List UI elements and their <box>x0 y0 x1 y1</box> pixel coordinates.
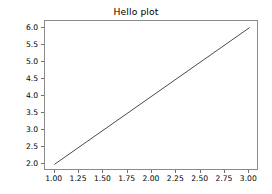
y-tick-mark <box>41 61 44 62</box>
y-tick-mark <box>41 44 44 45</box>
y-tick-label: 2.5 <box>26 142 38 151</box>
x-tick-mark <box>127 170 128 173</box>
plot-axes <box>44 20 258 170</box>
matplotlib-figure: Hello plot 1.001.251.501.752.002.252.502… <box>0 0 272 194</box>
y-tick-label: 4.0 <box>26 91 38 100</box>
x-tick-mark <box>102 170 103 173</box>
x-tick-label: 1.50 <box>94 174 111 183</box>
y-tick-label: 3.0 <box>26 125 38 134</box>
y-tick-mark <box>41 146 44 147</box>
x-tick-mark <box>200 170 201 173</box>
y-tick-label: 2.0 <box>26 159 38 168</box>
x-tick-label: 2.25 <box>167 174 184 183</box>
y-tick-label: 6.0 <box>26 22 38 31</box>
x-tick-mark <box>224 170 225 173</box>
x-tick-label: 1.25 <box>70 174 87 183</box>
y-tick-mark <box>41 163 44 164</box>
line-series-canvas <box>45 21 259 171</box>
x-tick-mark <box>151 170 152 173</box>
x-tick-label: 1.00 <box>45 174 62 183</box>
y-tick-label: 3.5 <box>26 108 38 117</box>
y-tick-mark <box>41 78 44 79</box>
x-tick-mark <box>248 170 249 173</box>
x-tick-label: 2.00 <box>143 174 160 183</box>
x-tick-label: 3.00 <box>240 174 257 183</box>
y-tick-label: 4.5 <box>26 73 38 82</box>
x-tick-mark <box>175 170 176 173</box>
data-line-series-0 <box>55 28 250 164</box>
y-tick-mark <box>41 112 44 113</box>
x-tick-label: 2.75 <box>215 174 232 183</box>
y-tick-label: 5.5 <box>26 39 38 48</box>
x-tick-mark <box>78 170 79 173</box>
y-tick-mark <box>41 129 44 130</box>
x-tick-mark <box>54 170 55 173</box>
y-tick-mark <box>41 27 44 28</box>
y-tick-mark <box>41 95 44 96</box>
x-tick-label: 2.50 <box>191 174 208 183</box>
x-tick-label: 1.75 <box>118 174 135 183</box>
y-tick-label: 5.0 <box>26 56 38 65</box>
chart-title: Hello plot <box>0 6 272 17</box>
